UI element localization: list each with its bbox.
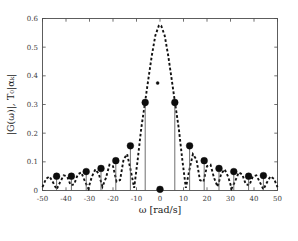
y-tick-label: 0.2 [27,130,38,138]
x-tick-label: -40 [60,195,71,203]
x-tick-label: 40 [250,195,259,203]
stem-series [53,99,267,193]
y-tick-label: 0.4 [27,72,39,80]
y-tick-label: 0.5 [27,44,38,52]
x-axis-label: ω [rad/s] [139,204,182,215]
data-point-marker [53,173,60,180]
y-tick-label: 0.3 [27,101,38,109]
x-tick-label: 50 [273,195,282,203]
data-point-marker [201,157,208,164]
x-tick-label: 30 [226,195,235,203]
y-tick-label: 0.6 [27,15,39,23]
data-point-marker [98,165,105,172]
data-point-marker [157,186,164,193]
data-point-marker [142,99,149,106]
annotation-dot [156,82,159,85]
data-point-marker [230,168,237,175]
x-tick-label: 10 [179,195,188,203]
data-point-marker [260,172,267,179]
data-point-marker [216,165,223,172]
data-point-marker [127,142,134,149]
data-point-marker [245,173,252,180]
figure-canvas: -50-40-30-20-100102030405000.10.20.30.40… [0,0,298,241]
x-tick-label: -20 [107,195,118,203]
data-point-marker [171,99,178,106]
data-point-marker [112,157,119,164]
x-tick-label: -30 [84,195,95,203]
data-point-marker [68,173,75,180]
y-axis-label: |G(ω)|, T₀|αₖ| [5,74,17,136]
data-point-marker [186,142,193,149]
y-tick-label: 0 [34,187,38,195]
envelope-curve [43,25,278,190]
x-tick-label: -50 [37,195,48,203]
x-tick-label: 0 [158,195,162,203]
data-point-marker [83,168,90,175]
chart-svg: -50-40-30-20-100102030405000.10.20.30.40… [0,0,298,241]
x-tick-label: -10 [131,195,142,203]
x-tick-label: 20 [203,195,212,203]
plot-frame [43,19,278,191]
y-tick-label: 0.1 [27,158,38,166]
